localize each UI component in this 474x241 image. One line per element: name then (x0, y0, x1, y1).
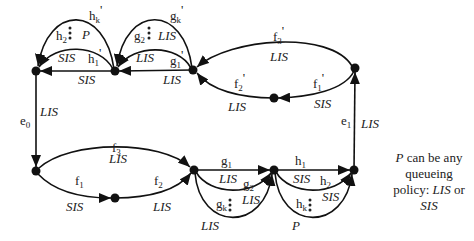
edge-hk (275, 173, 352, 217)
label-e1: e1 (341, 113, 351, 130)
policy-f1: SIS (66, 199, 84, 214)
label-h2: h2 (320, 173, 331, 190)
policy-gk-prime: LIS (157, 28, 177, 43)
label-f2: f2 (154, 173, 163, 190)
note-line-4: SIS (384, 198, 474, 214)
policy-hk: P (291, 218, 300, 233)
edge-h2-prime (39, 49, 113, 69)
label-h2-prime: h2 (56, 28, 67, 45)
note-line-3: policy: LIS or (384, 182, 474, 198)
policy-h1: SIS (293, 171, 311, 186)
edge-e1 (354, 72, 355, 170)
label-g1: g1 (221, 153, 232, 170)
policy-f2-prime: LIS (227, 99, 247, 114)
policy-e1: LIS (360, 116, 380, 131)
node-bottom-2 (190, 166, 199, 175)
node-top-2 (111, 67, 120, 76)
node-top-1 (32, 67, 41, 76)
node-bottom-4 (350, 166, 359, 175)
policy-h1-prime: SIS (78, 72, 96, 87)
edge-h2 (276, 172, 351, 190)
policy-g2: LIS (241, 192, 261, 207)
policy-hk-prime: P (81, 27, 90, 42)
label-g1-prime: g1' (170, 47, 183, 70)
label-h1-prime: h1' (88, 45, 101, 68)
label-g2: g2 (243, 176, 254, 193)
policy-f3-prime: LIS (269, 49, 289, 64)
ellipsis-dots-h (309, 199, 312, 212)
label-e0: e0 (20, 113, 31, 130)
policy-g1: LIS (218, 171, 238, 186)
policy-h2: SIS (322, 189, 340, 204)
label-g2-prime: g2 (134, 28, 145, 45)
policy-f2: LIS (152, 199, 172, 214)
label-gk-prime: gk' (170, 2, 183, 25)
note-line-2: queueing (384, 166, 474, 182)
policy-g2-prime: LIS (135, 50, 155, 65)
label-gk: gk (216, 196, 228, 213)
node-bottom-middle (111, 194, 120, 203)
policy-f1-prime: SIS (314, 96, 332, 111)
policy-g1-prime: LIS (162, 72, 182, 87)
policy-f3: LIS (108, 151, 128, 166)
note-line-1: P can be any (384, 150, 474, 166)
label-f1-prime: f1' (313, 70, 324, 93)
edge-f2 (115, 173, 191, 198)
node-bottom-1 (32, 167, 41, 176)
label-hk: hk (296, 196, 308, 213)
policy-h2-prime: SIS (58, 50, 76, 65)
policy-gk: LIS (200, 218, 220, 233)
label-hk-prime: hk' (89, 2, 102, 25)
node-top-middle (270, 94, 279, 103)
node-bottom-3 (270, 166, 279, 175)
node-top-right (351, 64, 360, 73)
ellipsis-dots-g (229, 199, 232, 212)
edge-hk-prime (38, 20, 114, 69)
label-f1: f1 (75, 173, 84, 190)
policy-note: P can be any queueing policy: LIS or SIS (384, 150, 474, 214)
ellipsis-dots-g-prime (148, 27, 151, 40)
node-top-3 (189, 66, 198, 75)
label-h1: h1 (295, 153, 306, 170)
policy-e0: LIS (39, 104, 59, 119)
ellipsis-dots-h-prime (69, 27, 72, 40)
label-f2-prime: f2' (234, 70, 245, 93)
edge-g1-prime-straight (119, 70, 193, 71)
